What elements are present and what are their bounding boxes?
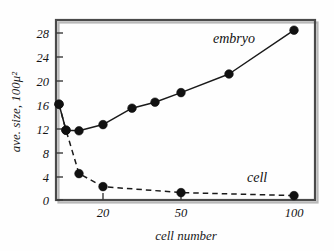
data-point (75, 127, 84, 136)
y-tick-label: 16 (37, 99, 50, 113)
series-embryo (55, 26, 299, 135)
data-point (99, 182, 108, 191)
data-point (62, 126, 71, 135)
data-point (99, 120, 108, 129)
chart-canvas: 28 24 20 16 12 8 4 0 20 50 100 cell numb… (0, 0, 334, 251)
y-tick-label: 24 (37, 51, 50, 65)
data-point (128, 104, 137, 113)
y-tick-label: 8 (43, 147, 50, 161)
plot-frame (56, 20, 318, 203)
embryo-series-label: embryo (213, 31, 255, 46)
data-point (75, 169, 84, 178)
data-point (290, 191, 299, 200)
x-axis-title: cell number (155, 228, 218, 243)
y-tick-label: 4 (43, 171, 49, 185)
embryo-line (59, 30, 294, 131)
y-tick-label: 28 (37, 27, 50, 41)
chart-figure: 28 24 20 16 12 8 4 0 20 50 100 cell numb… (0, 0, 334, 251)
y-tick-labels: 28 24 20 16 12 8 4 0 (37, 27, 50, 208)
x-tick-label: 50 (175, 206, 188, 220)
data-point (177, 88, 186, 97)
x-tick-label: 100 (285, 206, 305, 220)
data-point (177, 188, 186, 197)
y-tick-label: 20 (37, 75, 50, 89)
y-tick-label: 0 (43, 194, 50, 208)
cell-series-label: cell (247, 170, 267, 185)
data-point (55, 100, 64, 109)
x-tick-labels: 20 50 100 (97, 206, 304, 220)
x-tick-label: 20 (97, 206, 110, 220)
y-tick-label: 12 (37, 123, 50, 137)
data-point (290, 26, 299, 35)
data-point (225, 70, 234, 79)
y-axis-title: ave. size, 100μ² (8, 71, 23, 153)
data-point (151, 98, 160, 107)
